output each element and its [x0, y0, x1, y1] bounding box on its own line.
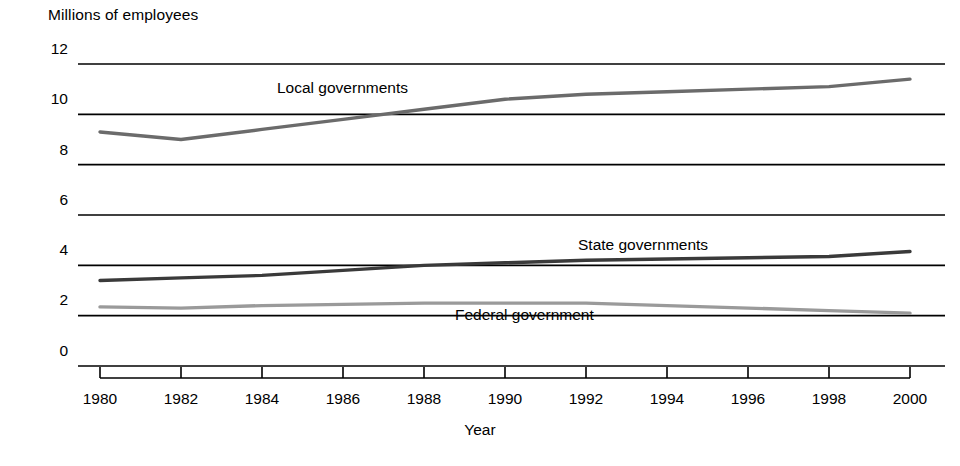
chart-figure: Millions of employees 12 10 8 6 4 2 0 19…: [0, 0, 960, 466]
x-tick-label-1984: 1984: [235, 390, 289, 408]
x-tick-label-1982: 1982: [154, 390, 208, 408]
x-tick-label-1998: 1998: [802, 390, 856, 408]
x-tick-label-1990: 1990: [478, 390, 532, 408]
x-tick-label-1992: 1992: [559, 390, 613, 408]
x-tick-label-1996: 1996: [721, 390, 775, 408]
x-tick-label-1980: 1980: [73, 390, 127, 408]
x-tick-label-1986: 1986: [316, 390, 370, 408]
series-label-federal: Federal government: [455, 306, 594, 324]
x-axis-title: Year: [0, 421, 960, 439]
series-label-local: Local governments: [277, 79, 408, 97]
x-axis-line: [100, 367, 910, 378]
x-tick-label-1988: 1988: [397, 390, 451, 408]
series-label-state: State governments: [578, 236, 708, 254]
x-tick-label-2000: 2000: [883, 390, 937, 408]
x-tick-label-1994: 1994: [640, 390, 694, 408]
series-line-local-governments: [100, 79, 910, 139]
